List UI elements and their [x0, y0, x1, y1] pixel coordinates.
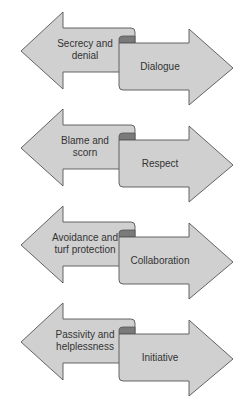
to-label: Initiative	[120, 335, 200, 381]
from-label: Blame and scorn	[40, 126, 130, 168]
from-label: Passivity and helplessness	[40, 320, 130, 362]
from-label-line-1: Avoidance and	[52, 232, 118, 244]
from-label-line-2: turf protection	[52, 244, 118, 256]
from-label: Secrecy and denial	[40, 29, 130, 71]
from-label-line-2: denial	[57, 50, 113, 62]
from-label-line-2: helplessness	[56, 341, 115, 353]
from-label-line-1: Secrecy and	[57, 38, 113, 50]
arrow-pair-2: Blame and scorn Respect	[0, 97, 248, 194]
from-label: Avoidance and turf protection	[40, 223, 130, 265]
to-label: Collaboration	[120, 238, 200, 284]
from-label-line-1: Passivity and	[56, 329, 115, 341]
from-label-line-2: scorn	[61, 147, 109, 159]
to-label-text: Respect	[142, 158, 179, 170]
to-label: Respect	[120, 141, 200, 187]
arrow-pair-4: Passivity and helplessness Initiative	[0, 291, 248, 388]
arrow-pair-1: Secrecy and denial Dialogue	[0, 0, 248, 97]
to-label-text: Collaboration	[131, 255, 190, 267]
arrow-pair-3: Avoidance and turf protection Collaborat…	[0, 194, 248, 291]
from-label-line-1: Blame and	[61, 135, 109, 147]
to-label-text: Initiative	[142, 352, 179, 364]
to-label-text: Dialogue	[140, 61, 179, 73]
to-label: Dialogue	[120, 44, 200, 90]
